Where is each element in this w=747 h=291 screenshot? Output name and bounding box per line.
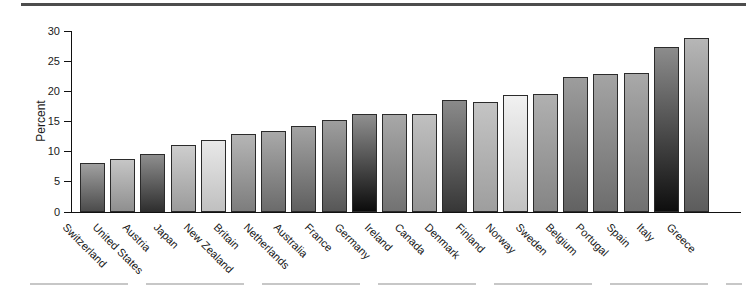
x-label-japan: Japan <box>151 221 181 251</box>
bar-finland <box>473 102 498 212</box>
bar-italy <box>654 47 679 212</box>
y-tick-label-25: 25 <box>38 55 60 68</box>
bar-new-zealand <box>201 140 226 212</box>
bar-germany <box>352 114 377 212</box>
bar-switzerland <box>80 163 105 212</box>
y-tick-mark-10 <box>64 151 71 152</box>
bar-france <box>322 120 347 212</box>
bar-sweden <box>533 94 558 212</box>
bar-australia <box>291 126 316 212</box>
y-tick-mark-0 <box>64 212 71 213</box>
x-label-norway: Norway <box>483 221 518 256</box>
bar-spain <box>624 73 649 212</box>
bar-chart: Percent 051015202530 SwitzerlandUnited S… <box>0 0 747 291</box>
bar-united-states <box>110 159 135 212</box>
y-tick-mark-15 <box>64 121 71 122</box>
bar-norway <box>503 95 528 212</box>
bar-portugal <box>593 74 618 212</box>
x-label-canada: Canada <box>393 221 429 257</box>
y-tick-mark-5 <box>64 181 71 182</box>
bar-ireland <box>382 114 407 212</box>
y-tick-mark-30 <box>64 31 71 32</box>
x-label-italy: Italy <box>634 221 657 244</box>
y-tick-label-30: 30 <box>38 25 60 38</box>
bar-canada <box>412 114 437 212</box>
bar-japan <box>171 145 196 212</box>
bar-netherlands <box>261 131 286 212</box>
x-axis-line <box>71 212 741 213</box>
y-axis-line <box>71 31 72 213</box>
x-label-greece: Greece <box>665 221 699 255</box>
bar-britain <box>231 134 256 212</box>
bottom-divider-rule <box>30 283 742 285</box>
bar-austria <box>140 154 165 212</box>
y-tick-mark-20 <box>64 91 71 92</box>
chart-figure: Percent 051015202530 SwitzerlandUnited S… <box>0 0 747 291</box>
y-tick-label-10: 10 <box>38 145 60 158</box>
y-tick-mark-25 <box>64 61 71 62</box>
y-tick-label-15: 15 <box>38 115 60 128</box>
bar-belgium <box>563 77 588 212</box>
bar-denmark <box>442 100 467 212</box>
y-tick-label-20: 20 <box>38 85 60 98</box>
y-tick-label-5: 5 <box>38 175 60 188</box>
x-label-spain: Spain <box>604 221 632 249</box>
y-tick-label-0: 0 <box>38 206 60 219</box>
bar-greece <box>684 38 709 212</box>
